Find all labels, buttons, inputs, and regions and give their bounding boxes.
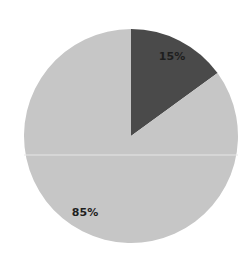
pie-chart [0, 0, 252, 262]
slice-label-15: 15% [159, 50, 185, 63]
pie-slices [24, 29, 238, 243]
slice-label-85: 85% [72, 206, 98, 219]
